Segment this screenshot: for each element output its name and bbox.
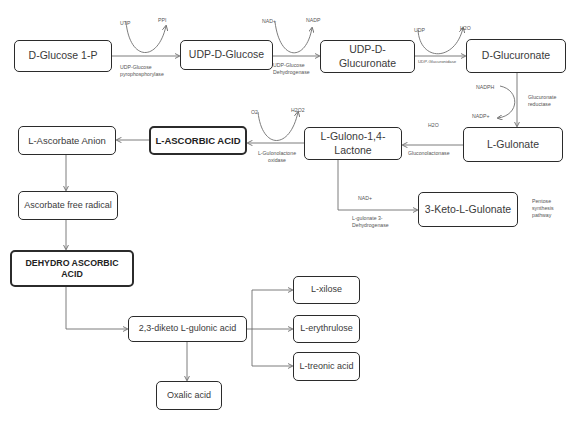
cofactor-nadp-plus: NADP+ [472,113,489,120]
arrow-dehydro-diketo [66,287,127,329]
cofactor-nad-plus-1: NAD+ [262,18,276,25]
annotation-pentose-pathway: Pentose synthesis pathway [532,198,568,218]
node-l-gulono-lactone: L-Gulono-1,4-Lactone [304,127,402,160]
cofactor-nadph: NADPH [476,84,494,91]
node-l-gulonate: L-Gulonate [463,127,563,162]
node-3-keto-l-gulonate: 3-Keto-L-Gulonate [418,192,518,227]
node-l-erythrulose: L-erythrulose [293,315,360,343]
cofactor-utp: UTP [120,20,130,27]
node-l-ascorbate-anion: L-Ascorbate Anion [18,126,116,155]
node-udp-d-glucose: UDP-D-Glucose [180,40,273,70]
enzyme-gluconolactonase: Gluconolactonase [408,150,450,157]
arrow-lactone-keto [338,160,417,210]
enzyme-l-gulonate-3-dehydrogenase: L-gulonate 3-Dehydrogenase [352,215,396,229]
enzyme-udp-glucose-pyrophosphorylase: UDP-Glucose pyrophosphorylase [120,64,180,78]
node-d-glucose-1p: D-Glucose 1-P [14,40,112,72]
node-l-treonic-acid: L-treonic acid [293,352,360,381]
cofactor-h2o-2: H2O [428,122,439,129]
node-l-xilose: L-xilose [293,276,360,304]
cofactor-nad-plus-2: NAD+ [358,195,372,202]
cofactor-h2o2: H2O2 [291,107,305,114]
enzyme-udp-glucuronidase: UDP-Glucuronidase [418,59,456,65]
nad-nadp-curve [275,22,312,53]
node-d-glucuronate: D-Glucuronate [466,39,566,73]
cofactor-h2o-1: H2O [460,25,471,32]
node-oxalic-acid: Oxalic acid [156,381,222,410]
node-l-ascorbic-acid: L-ASCORBIC ACID [149,126,247,155]
cofactor-ppi: PPI [158,17,166,24]
node-ascorbate-free-radical: Ascorbate free radical [18,191,118,220]
o2-h2o2-curve [258,112,298,141]
enzyme-glucuronate-reductase: Glucuronate reductase [528,94,568,108]
cofactor-nadp: NADP [306,17,320,24]
cofactor-o2: O2 [251,109,258,116]
nadph-nadp-curve [498,86,515,118]
node-diketo-gulonic-acid: 2,3-diketo L-gulonic acid [128,316,247,342]
node-udp-d-glucuronate: UDP-D-Glucuronate [320,40,415,73]
enzyme-l-gulonolactone-oxidase: L-Gulonolactone oxidase [252,150,302,164]
cofactor-udp: UDP [414,27,425,34]
enzyme-udp-glucose-dehydrogenase: UDP-Glucose Dehydrogenase [273,62,319,76]
node-dehydro-ascorbic-acid: DEHYDRO ASCORBIC ACID [10,250,134,287]
pathway-diagram: D-Glucose 1-P UDP-D-Glucose UDP-D-Glucur… [0,0,574,421]
utp-ppi-curve [126,22,166,53]
